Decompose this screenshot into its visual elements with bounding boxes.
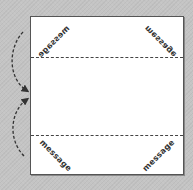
top-flap-fold-arrow [12,32,26,90]
paper-square: message message message message [30,16,184,175]
label-bottom-left: message [38,138,74,174]
bottom-fold-line [31,135,183,136]
label-bottom-right: message [141,138,177,174]
bottom-flap-fold-arrow [13,100,26,156]
label-top-left: message [36,24,72,60]
label-top-right: message [143,24,179,60]
top-fold-line [31,57,183,58]
